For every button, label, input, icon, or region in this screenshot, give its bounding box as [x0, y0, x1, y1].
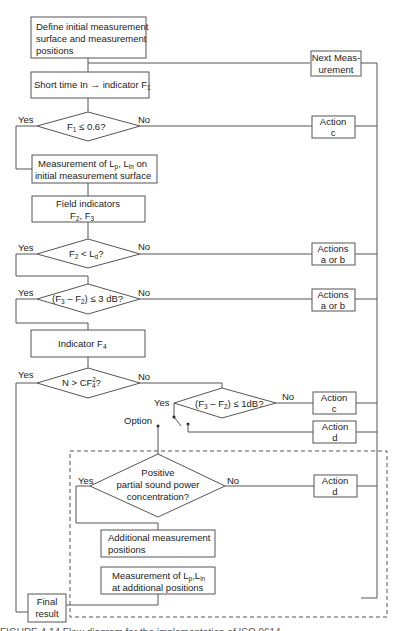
svg-text:No: No [138, 114, 150, 125]
svg-text:positions: positions [36, 45, 74, 56]
node-action-c-2: Action c [313, 392, 356, 414]
node-action-c-1: Action c [312, 116, 355, 138]
svg-text:Field indicators: Field indicators [56, 198, 120, 209]
svg-text:Action: Action [322, 475, 348, 486]
svg-text:initial measurement surface: initial measurement surface [35, 170, 151, 181]
svg-text:Action: Action [320, 116, 346, 127]
option-label: Option [124, 415, 152, 426]
svg-text:Yes: Yes [18, 242, 34, 253]
svg-text:Action: Action [321, 392, 347, 403]
svg-text:Additional measurement: Additional measurement [108, 532, 211, 543]
svg-text:Define initial measurement: Define initial measurement [36, 21, 149, 32]
svg-text:c: c [331, 127, 336, 138]
node-action-d-2: Action d [314, 475, 357, 497]
node-indicator-f4: Indicator F4 [31, 330, 145, 357]
svg-text:surface and measurement: surface and measurement [36, 33, 147, 44]
svg-text:Next Meas-: Next Meas- [312, 52, 361, 63]
node-final-result: Final result [28, 594, 66, 622]
svg-text:Actions: Actions [317, 289, 348, 300]
svg-text:Short time In → indicator F1: Short time In → indicator F1 [34, 79, 151, 91]
node-action-d-1: Action d [313, 421, 356, 443]
svg-text:Yes: Yes [78, 475, 94, 486]
svg-text:No: No [227, 475, 239, 486]
decision-f2-less-ld: F2 < Ld? Yes No [18, 239, 150, 268]
svg-text:a or b: a or b [321, 300, 345, 311]
decision-positive-concentration: Positive partial sound power concentrati… [78, 454, 239, 517]
figure-caption-partial: FIGURE 4.14 Flow diagram for the impleme… [0, 624, 404, 631]
node-actions-a-or-b-2: Actions a or b [312, 289, 355, 311]
flowchart-diagram: Define initial measurement surface and m… [0, 0, 404, 631]
svg-text:Yes: Yes [18, 369, 34, 380]
svg-text:result: result [35, 608, 59, 619]
svg-text:d: d [332, 432, 337, 443]
node-next-measurement: Next Meas- urement [311, 51, 361, 76]
svg-text:Actions: Actions [317, 243, 348, 254]
node-measurement-additional: Measurement of Lp,Lin at additional posi… [101, 567, 215, 594]
svg-text:Yes: Yes [18, 287, 34, 298]
node-short-time: Short time In → indicator F1 [31, 72, 151, 98]
svg-text:No: No [282, 391, 294, 402]
svg-text:Yes: Yes [154, 397, 170, 408]
svg-text:Positive: Positive [141, 467, 174, 478]
svg-text:N > CF24?: N > CF24? [62, 376, 101, 389]
node-additional-positions: Additional measurement positions [101, 530, 215, 557]
svg-text:Indicator F4: Indicator F4 [58, 338, 107, 350]
node-define-initial: Define initial measurement surface and m… [31, 17, 149, 58]
node-actions-a-or-b-1: Actions a or b [312, 243, 355, 265]
decision-n-greater-cf4: N > CF24? Yes No [18, 368, 150, 398]
svg-text:F2 < Ld?: F2 < Ld? [69, 248, 103, 260]
node-field-indicators: Field indicators F2, F3 [32, 196, 145, 222]
svg-text:urement: urement [319, 64, 354, 75]
svg-text:at additional positions: at additional positions [112, 582, 204, 593]
svg-text:c: c [332, 403, 337, 414]
svg-text:partial sound power: partial sound power [117, 479, 200, 490]
svg-text:Yes: Yes [18, 114, 34, 125]
svg-text:No: No [138, 241, 150, 252]
decision-f1-threshold: F1 ≤ 0.6? Yes No [18, 112, 150, 141]
svg-text:positions: positions [108, 544, 146, 555]
decision-f3-f2-1db: (F3 – F2) ≤ 1dB? Yes No [154, 388, 294, 418]
svg-text:F1 ≤ 0.6?: F1 ≤ 0.6? [67, 121, 105, 133]
node-measurement-lp-lin: Measurement of Lp, Lin on initial measur… [32, 155, 157, 183]
svg-text:No: No [138, 287, 150, 298]
svg-text:concentration?: concentration? [127, 491, 189, 502]
svg-text:Action: Action [322, 421, 348, 432]
svg-text:Final: Final [37, 596, 58, 607]
decision-f3-f2-3db: (F3 – F2) ≤ 3 dB? Yes No [18, 284, 150, 314]
svg-text:No: No [138, 371, 150, 382]
svg-text:a or b: a or b [321, 254, 345, 265]
svg-text:d: d [332, 486, 337, 497]
